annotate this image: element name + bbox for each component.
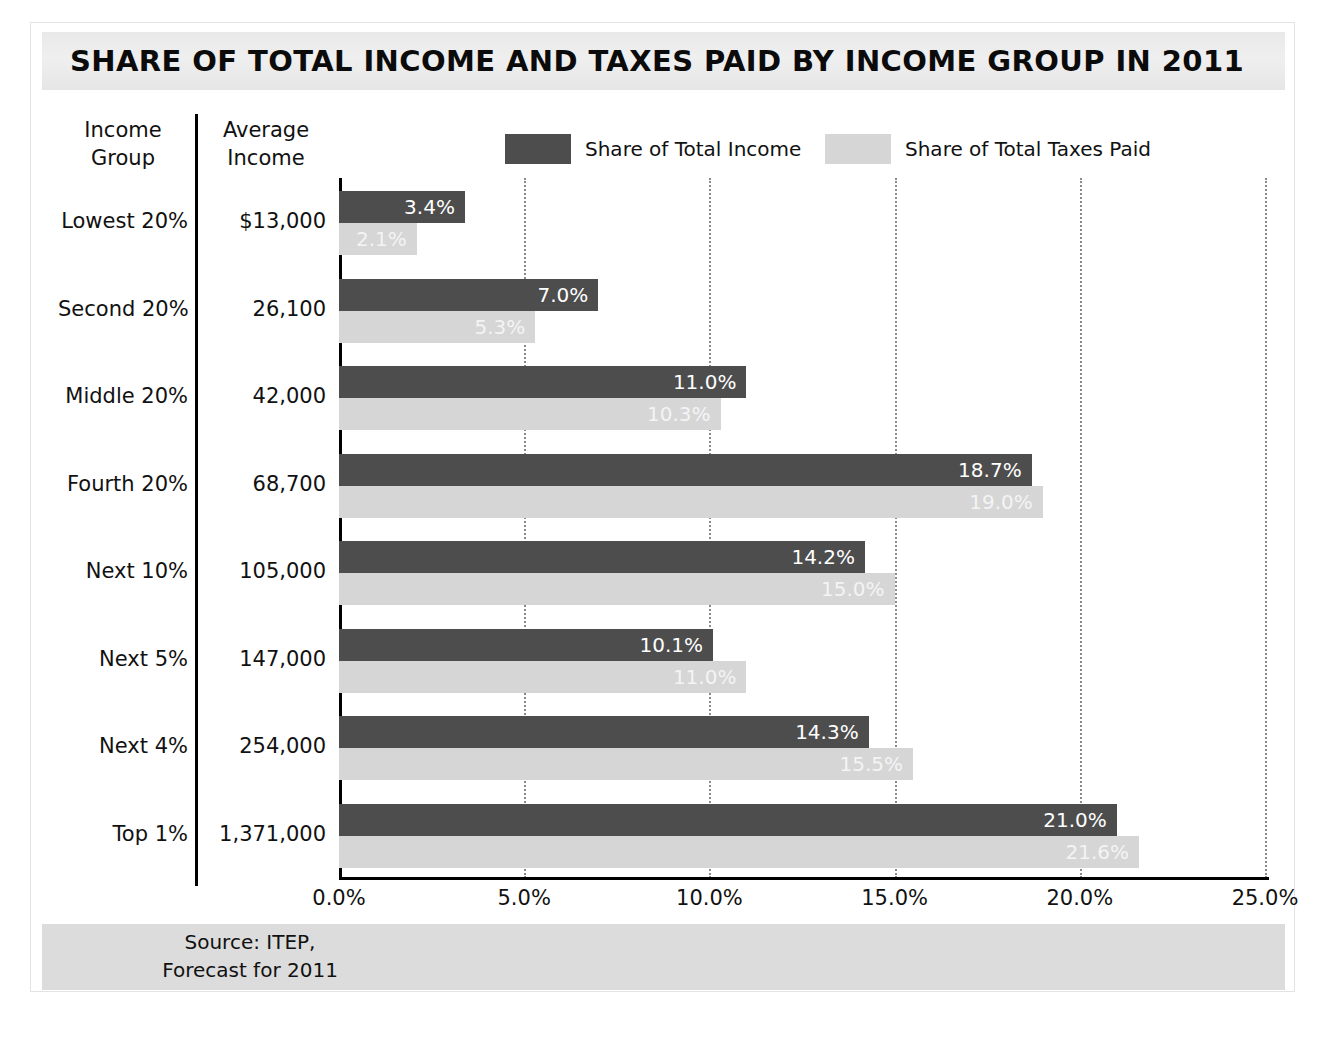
bar-taxes: 5.3% (339, 311, 535, 343)
bar-income: 3.4% (339, 191, 465, 223)
row-label-income-group: Next 10% (58, 559, 188, 583)
bar-value-label: 10.1% (640, 633, 704, 657)
x-tick-label: 5.0% (474, 886, 574, 910)
bar-value-label: 21.6% (1066, 840, 1130, 864)
bar-value-label: 11.0% (673, 370, 737, 394)
bar-group: 7.0%5.3% (339, 279, 1265, 343)
bar-income: 14.3% (339, 716, 869, 748)
legend-item-income: Share of Total Income (505, 134, 801, 168)
row-label-income-group: Next 5% (58, 647, 188, 671)
legend-swatch-income (505, 134, 571, 164)
column-divider (195, 114, 198, 886)
row-label-average-income: 42,000 (208, 384, 326, 408)
bar-group: 14.2%15.0% (339, 541, 1265, 605)
chart-figure: SHARE OF TOTAL INCOME AND TAXES PAID BY … (0, 0, 1325, 1042)
bar-value-label: 15.0% (821, 577, 885, 601)
plot-area: 3.4%2.1%7.0%5.3%11.0%10.3%18.7%19.0%14.2… (339, 178, 1265, 878)
bar-value-label: 11.0% (673, 665, 737, 689)
bar-value-label: 14.2% (791, 545, 855, 569)
bar-group: 14.3%15.5% (339, 716, 1265, 780)
row-label-income-group: Top 1% (58, 822, 188, 846)
x-tick-label: 15.0% (845, 886, 945, 910)
column-header-income-group-line2: Group (58, 144, 188, 172)
bar-value-label: 19.0% (969, 490, 1033, 514)
x-axis-line (339, 877, 1269, 880)
legend-label-taxes: Share of Total Taxes Paid (905, 137, 1151, 161)
bar-value-label: 10.3% (647, 402, 711, 426)
row-label-income-group: Next 4% (58, 734, 188, 758)
column-header-average-income: Average Income (206, 116, 326, 172)
bar-value-label: 15.5% (840, 752, 904, 776)
column-header-income-group-line1: Income (58, 116, 188, 144)
x-tick-label: 20.0% (1030, 886, 1130, 910)
bar-taxes: 15.5% (339, 748, 913, 780)
legend-label-income: Share of Total Income (585, 137, 801, 161)
x-tick-label: 25.0% (1215, 886, 1315, 910)
bar-income: 7.0% (339, 279, 598, 311)
bar-value-label: 5.3% (474, 315, 525, 339)
row-label-income-group: Middle 20% (58, 384, 188, 408)
x-tick-label: 10.0% (659, 886, 759, 910)
bar-income: 21.0% (339, 804, 1117, 836)
row-label-average-income: 1,371,000 (208, 822, 326, 846)
bar-group: 10.1%11.0% (339, 629, 1265, 693)
source-note-line2: Forecast for 2011 (100, 956, 400, 984)
x-tick-label: 0.0% (289, 886, 389, 910)
legend-swatch-taxes (825, 134, 891, 164)
row-label-average-income: 68,700 (208, 472, 326, 496)
source-note-line1: Source: ITEP, (100, 928, 400, 956)
column-header-average-income-line2: Income (206, 144, 326, 172)
gridline (1265, 178, 1267, 878)
bar-taxes: 19.0% (339, 486, 1043, 518)
bar-income: 11.0% (339, 366, 746, 398)
legend-item-taxes: Share of Total Taxes Paid (825, 134, 1151, 168)
row-label-average-income: 147,000 (208, 647, 326, 671)
source-note: Source: ITEP, Forecast for 2011 (100, 928, 400, 984)
column-header-average-income-line1: Average (206, 116, 326, 144)
bar-value-label: 14.3% (795, 720, 859, 744)
row-label-income-group: Second 20% (58, 297, 188, 321)
column-header-income-group: Income Group (58, 116, 188, 172)
bar-taxes: 10.3% (339, 398, 721, 430)
bar-taxes: 15.0% (339, 573, 895, 605)
bar-group: 11.0%10.3% (339, 366, 1265, 430)
bar-income: 14.2% (339, 541, 865, 573)
row-label-average-income: 254,000 (208, 734, 326, 758)
row-label-average-income: $13,000 (208, 209, 326, 233)
bar-income: 18.7% (339, 454, 1032, 486)
bar-group: 3.4%2.1% (339, 191, 1265, 255)
bar-value-label: 2.1% (356, 227, 407, 251)
bar-taxes: 21.6% (339, 836, 1139, 868)
bar-value-label: 3.4% (404, 195, 455, 219)
row-label-average-income: 105,000 (208, 559, 326, 583)
bar-taxes: 11.0% (339, 661, 746, 693)
row-label-income-group: Lowest 20% (58, 209, 188, 233)
bar-taxes: 2.1% (339, 223, 417, 255)
page-title: SHARE OF TOTAL INCOME AND TAXES PAID BY … (70, 44, 1270, 78)
row-label-income-group: Fourth 20% (58, 472, 188, 496)
bar-value-label: 21.0% (1043, 808, 1107, 832)
bar-group: 18.7%19.0% (339, 454, 1265, 518)
bar-value-label: 7.0% (537, 283, 588, 307)
bar-value-label: 18.7% (958, 458, 1022, 482)
row-label-average-income: 26,100 (208, 297, 326, 321)
bar-group: 21.0%21.6% (339, 804, 1265, 868)
bar-income: 10.1% (339, 629, 713, 661)
